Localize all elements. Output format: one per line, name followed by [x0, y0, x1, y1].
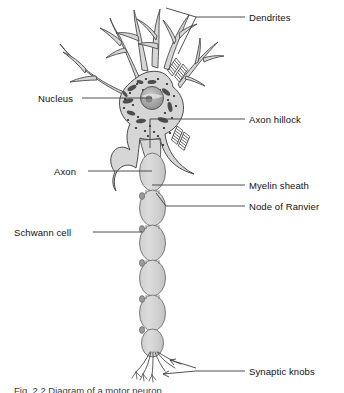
myelin-segment [142, 329, 164, 357]
schwann-cell [139, 260, 144, 267]
myelin-sheath [140, 153, 166, 357]
label-myelin-sheath: Myelin sheath [249, 180, 309, 191]
label-dendrites: Dendrites [249, 12, 291, 23]
label-axon-hillock: Axon hillock [249, 114, 301, 125]
schwann-cell [139, 193, 144, 200]
neuron-diagram [0, 0, 344, 393]
schwann-cell [139, 226, 144, 233]
label-schwann-cell: Schwann cell [14, 227, 71, 238]
label-nucleus: Nucleus [38, 93, 73, 104]
label-axon: Axon [54, 166, 76, 177]
schwann-cell [139, 327, 144, 334]
nucleolus [146, 96, 152, 102]
label-synaptic-knobs: Synaptic knobs [249, 366, 315, 377]
schwann-cell [139, 296, 144, 303]
label-node-of-ranvier: Node of Ranvier [249, 201, 319, 212]
figure-caption: Fig. 2.2 Diagram of a motor neuron [14, 385, 162, 393]
